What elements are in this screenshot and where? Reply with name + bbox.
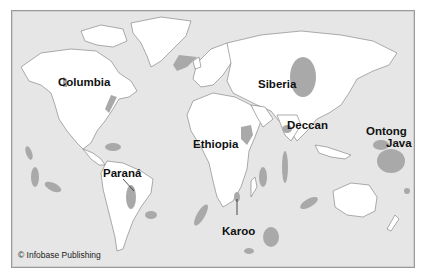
world-map: Columbia Siberia Deccan Ethiopia Ontong … <box>11 10 415 268</box>
north-america <box>21 49 137 149</box>
province-indian-1 <box>298 195 319 212</box>
label-siberia: Siberia <box>258 79 296 91</box>
province-siberia <box>290 57 316 97</box>
copyright-credit: © Infobase Publishing <box>18 250 101 260</box>
label-ethiopia: Ethiopia <box>193 139 238 151</box>
new-zealand <box>387 215 399 231</box>
province-rio-grande <box>145 211 157 219</box>
label-columbia: Columbia <box>58 77 110 89</box>
province-caribbean <box>105 143 121 151</box>
province-pacific-3 <box>43 180 63 195</box>
province-atlantic-s <box>192 203 211 228</box>
indonesia <box>315 145 351 159</box>
arctic-islands <box>81 25 127 47</box>
province-indian-2 <box>259 167 267 187</box>
province-ninetyeast <box>282 151 288 183</box>
province-pacific-5 <box>244 248 254 254</box>
province-pacific-4 <box>24 145 34 160</box>
label-java: Java <box>386 138 412 150</box>
province-hikurangi <box>404 188 410 194</box>
province-parana <box>126 185 136 209</box>
label-ontong: Ontong <box>366 126 407 138</box>
province-pacific-2 <box>31 167 39 187</box>
central-america <box>83 149 105 165</box>
australia <box>333 183 377 217</box>
label-parana: Paraná <box>103 168 141 180</box>
province-ontong-java <box>377 149 405 173</box>
label-deccan: Deccan <box>287 120 328 132</box>
madagascar <box>251 177 257 197</box>
province-kerguelen <box>263 227 279 247</box>
label-karoo: Karoo <box>222 226 255 238</box>
